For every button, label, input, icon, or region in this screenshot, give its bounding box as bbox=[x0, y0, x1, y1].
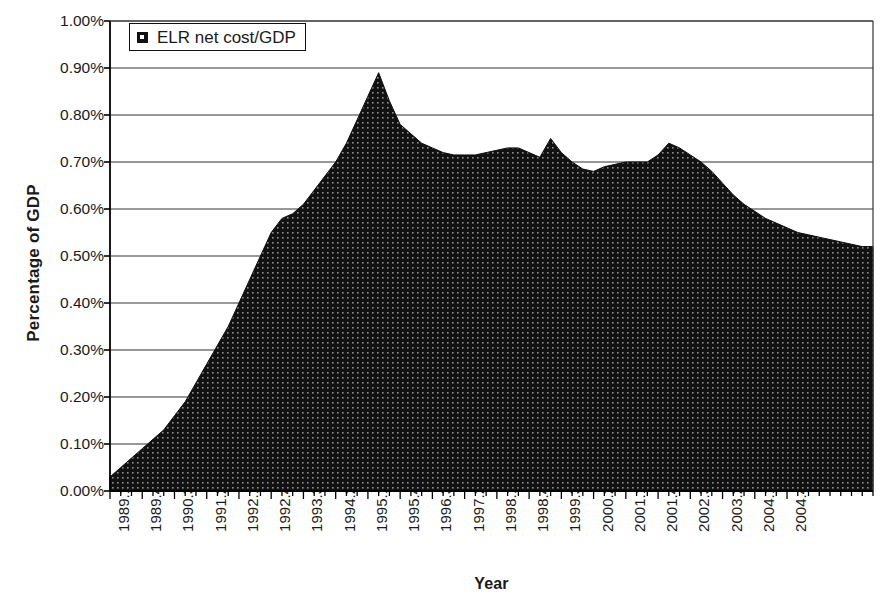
legend[interactable]: ELR net cost/GDP bbox=[129, 23, 306, 51]
series-swatch-icon bbox=[137, 32, 148, 43]
legend-label: ELR net cost/GDP bbox=[157, 29, 296, 46]
plot-area bbox=[0, 0, 891, 603]
chart-container: Percentage of GDP 1.00%0.90%0.80%0.70%0.… bbox=[0, 0, 891, 603]
x-axis-ticks bbox=[110, 491, 873, 499]
series-area-elr-net-cost-gdp bbox=[110, 73, 873, 491]
